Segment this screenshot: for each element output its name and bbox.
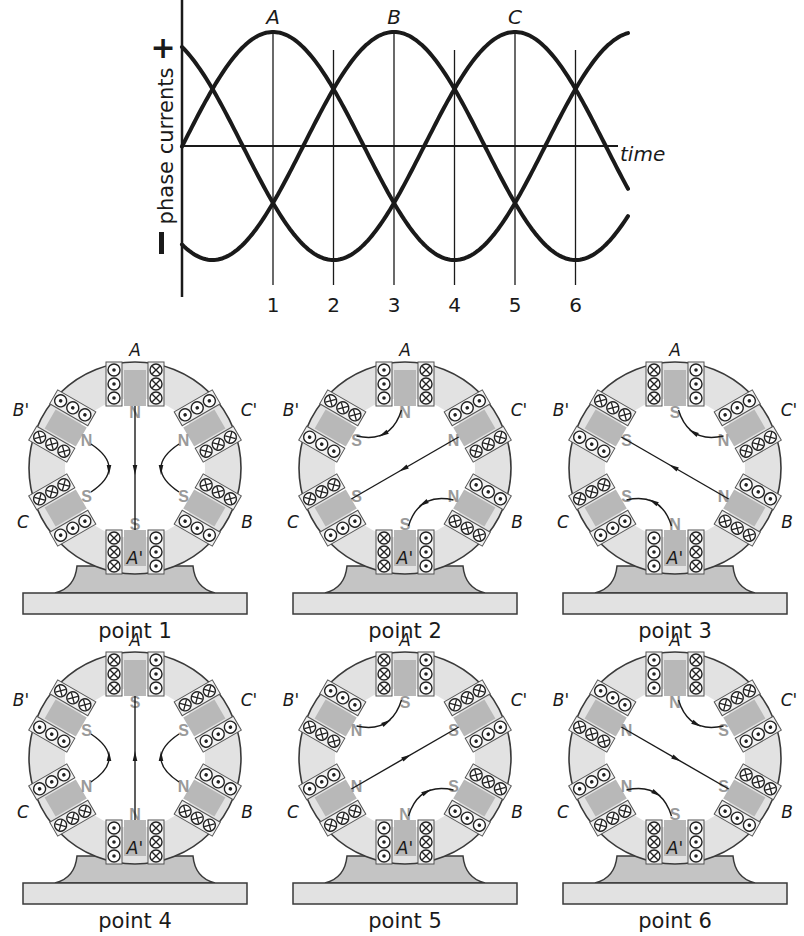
y-axis-label: phase currents: [154, 68, 178, 225]
pole-tooth-top: [394, 370, 416, 406]
pole-tooth-top: [124, 660, 146, 696]
terminal-label-A: A: [128, 340, 141, 360]
coil-Ap_right: [418, 530, 434, 574]
motor-caption: point 5: [368, 909, 442, 933]
pole-letter-upper_left: N: [81, 432, 93, 449]
coil-A_right: [646, 652, 662, 696]
terminal-label-C: C: [287, 802, 299, 822]
terminal-label-C-prime: C': [241, 400, 258, 420]
terminal-label-B-prime: B': [553, 400, 569, 420]
terminal-label-B: B: [511, 802, 523, 822]
coil-A_right: [106, 652, 122, 696]
terminal-label-C-prime: C': [781, 690, 798, 710]
terminal-label-B: B: [781, 512, 793, 532]
terminal-label-C: C: [17, 802, 29, 822]
pole-tooth-top: [664, 370, 686, 406]
motor-4: SSNNNSAA'B'C'CBpoint 4: [13, 630, 257, 933]
plus-sign: +: [150, 30, 175, 65]
terminal-label-C-prime: C': [511, 400, 528, 420]
coil-A_left: [688, 652, 704, 696]
terminal-label-B: B: [241, 512, 253, 532]
terminal-label-C-prime: C': [241, 690, 258, 710]
point-tick-labels: 123456: [267, 293, 582, 317]
terminal-label-B-prime: B': [283, 400, 299, 420]
terminal-label-A-prime: A': [396, 548, 413, 568]
coil-A_right: [376, 652, 392, 696]
motor-5: SNNNSSAA'B'C'CBpoint 5: [283, 630, 527, 933]
coil-Ap_left: [106, 530, 122, 574]
terminal-label-C: C: [17, 512, 29, 532]
terminal-label-B-prime: B': [13, 400, 29, 420]
pole-tooth-top: [664, 660, 686, 696]
pole-letter-lower_right: N: [448, 488, 460, 505]
tick-label-point-2: 2: [327, 293, 340, 317]
peak-label-B: B: [387, 5, 401, 29]
motor-base: [563, 883, 787, 904]
coil-A_right: [646, 362, 662, 406]
pole-letter-upper_left: S: [351, 432, 362, 449]
minus-sign: [159, 232, 164, 254]
pole-letter-lower_left: S: [81, 488, 92, 505]
coil-A_left: [148, 652, 164, 696]
motor-base: [293, 593, 517, 614]
motor-1: NNSSSNAA'B'C'CBpoint 1: [13, 340, 257, 643]
pole-letter-lower_left: N: [621, 778, 633, 795]
terminal-label-C-prime: C': [511, 690, 528, 710]
motor-caption: point 4: [98, 909, 172, 933]
terminal-label-A: A: [128, 630, 141, 650]
pole-letter-upper_right: S: [178, 722, 189, 739]
motor-caption: point 6: [638, 909, 712, 933]
peak-labels: ABC: [264, 5, 522, 29]
pole-tooth-top: [394, 660, 416, 696]
terminal-label-C: C: [287, 512, 299, 532]
pole-letter-lower_right: S: [178, 488, 189, 505]
coil-A_left: [148, 362, 164, 406]
terminal-label-C: C: [557, 802, 569, 822]
terminal-label-A: A: [668, 630, 681, 650]
tick-label-point-3: 3: [388, 293, 401, 317]
terminal-label-A-prime: A': [666, 548, 683, 568]
motor-3: SSSNNNAA'B'C'CBpoint 3: [553, 340, 797, 643]
coil-Ap_right: [148, 820, 164, 864]
pole-letter-lower_left: N: [81, 778, 93, 795]
pole-letter-lower_right: N: [178, 778, 190, 795]
coil-A_right: [376, 362, 392, 406]
motor-base: [23, 593, 247, 614]
coil-Ap_right: [418, 820, 434, 864]
coil-A_right: [106, 362, 122, 406]
tick-label-point-4: 4: [448, 293, 461, 317]
terminal-label-A-prime: A': [126, 548, 143, 568]
pole-letter-upper_left: N: [351, 722, 363, 739]
terminal-label-A-prime: A': [126, 838, 143, 858]
phase-current-chart: ABC 123456 + phase currents time: [150, 0, 665, 317]
terminal-label-A: A: [668, 340, 681, 360]
coil-Ap_right: [688, 530, 704, 574]
coil-Ap_left: [376, 530, 392, 574]
terminal-label-B-prime: B': [283, 690, 299, 710]
coil-Ap_left: [646, 820, 662, 864]
pole-letter-lower_right: S: [448, 778, 459, 795]
terminal-label-A: A: [398, 340, 411, 360]
peak-label-C: C: [508, 5, 522, 29]
motor-base: [293, 883, 517, 904]
pole-letter-upper_left: S: [81, 722, 92, 739]
pole-letter-upper_right: N: [718, 432, 730, 449]
coil-A_left: [418, 652, 434, 696]
pole-letter-upper_right: N: [178, 432, 190, 449]
terminal-label-B: B: [241, 802, 253, 822]
tick-label-point-1: 1: [267, 293, 280, 317]
terminal-label-A-prime: A': [396, 838, 413, 858]
coil-Ap_left: [376, 820, 392, 864]
motor-base: [563, 593, 787, 614]
tick-label-point-6: 6: [569, 293, 582, 317]
time-axis-label: time: [620, 142, 665, 166]
motor-base: [23, 883, 247, 904]
motor-grid: NNSSSNAA'B'C'CBpoint 1NSSSNNAA'B'C'CBpoi…: [13, 340, 797, 933]
motor-2: NSSSNNAA'B'C'CBpoint 2: [283, 340, 527, 643]
coil-A_left: [688, 362, 704, 406]
motor-6: NNNSSSAA'B'C'CBpoint 6: [553, 630, 797, 933]
coil-Ap_right: [148, 530, 164, 574]
coil-Ap_right: [688, 820, 704, 864]
terminal-label-A-prime: A': [666, 838, 683, 858]
terminal-label-B: B: [781, 802, 793, 822]
